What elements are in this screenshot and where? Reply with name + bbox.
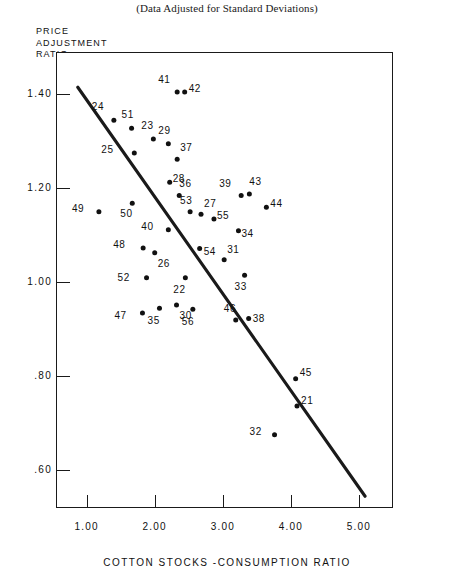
data-point-label: 46 — [224, 304, 236, 314]
data-point-label: 33 — [235, 282, 247, 292]
x-axis-title: COTTON STOCKS -CONSUMPTION RATIO — [0, 557, 454, 568]
data-point-label: 37 — [180, 143, 192, 153]
data-point-label: 31 — [227, 245, 239, 255]
y-axis-tick-label: 1.40 — [4, 88, 52, 99]
data-point — [264, 205, 269, 210]
data-point — [246, 316, 251, 321]
data-point — [233, 317, 238, 322]
trend-line — [78, 87, 365, 496]
data-point — [211, 216, 216, 221]
data-point-label: 35 — [147, 316, 159, 326]
data-point — [174, 302, 179, 307]
data-point-label: 56 — [182, 317, 194, 327]
y-axis-tick-mark — [57, 376, 70, 377]
data-point — [293, 376, 298, 381]
data-point — [96, 209, 101, 214]
data-point-label: 48 — [113, 240, 125, 250]
data-point-label: 21 — [301, 396, 313, 406]
y-axis-title-line-2: ADJUSTMENT — [36, 38, 108, 50]
data-point — [141, 246, 146, 251]
data-point — [182, 89, 187, 94]
data-point-label: 40 — [141, 222, 153, 232]
data-point-label: 53 — [180, 196, 192, 206]
data-point — [166, 227, 171, 232]
y-axis-tick-label: .80 — [4, 370, 52, 381]
data-point-label: 27 — [204, 199, 216, 209]
data-point-label: 39 — [219, 179, 231, 189]
x-axis-tick-mark — [223, 495, 224, 508]
x-axis-tick-mark — [155, 495, 156, 508]
data-point-label: 29 — [158, 126, 170, 136]
data-point — [199, 212, 204, 217]
y-axis-tick-mark — [57, 188, 70, 189]
chart-figure: (Data Adjusted for Standard Deviations) … — [0, 0, 454, 583]
data-point-label: 44 — [270, 199, 282, 209]
data-point-label: 34 — [241, 229, 253, 239]
data-point — [242, 273, 247, 278]
x-axis-tick-label: 2.00 — [130, 521, 180, 532]
data-point-label: 47 — [114, 311, 126, 321]
data-point — [239, 193, 244, 198]
data-point — [175, 89, 180, 94]
data-point — [111, 118, 116, 123]
data-point — [166, 141, 171, 146]
data-point-label: 51 — [122, 110, 134, 120]
x-axis-tick-mark — [87, 495, 88, 508]
data-point-label: 42 — [189, 84, 201, 94]
x-axis-tick-mark — [291, 495, 292, 508]
data-point — [175, 157, 180, 162]
data-point-label: 38 — [253, 314, 265, 324]
data-point — [295, 403, 300, 408]
y-axis-tick-label: .60 — [4, 464, 52, 475]
scatter-points-group — [96, 89, 299, 437]
data-point — [151, 136, 156, 141]
y-axis-tick-label: 1.00 — [4, 276, 52, 287]
data-point-label: 26 — [158, 259, 170, 269]
data-point — [130, 201, 135, 206]
data-point — [188, 209, 193, 214]
data-point-label: 49 — [72, 204, 84, 214]
data-point — [222, 257, 227, 262]
data-point-label: 36 — [179, 179, 191, 189]
data-point-label: 41 — [158, 75, 170, 85]
y-axis-title-line-1: PRICE — [36, 26, 108, 38]
data-point — [183, 275, 188, 280]
data-point-label: 55 — [217, 211, 229, 221]
data-point — [236, 228, 241, 233]
y-axis-tick-mark — [57, 470, 70, 471]
data-point — [129, 126, 134, 131]
data-point-label: 23 — [141, 121, 153, 131]
data-point-label: 52 — [118, 273, 130, 283]
data-point-label: 22 — [173, 285, 185, 295]
data-point — [132, 151, 137, 156]
x-axis-tick-label: 4.00 — [266, 521, 316, 532]
data-point — [197, 246, 202, 251]
data-point — [167, 180, 172, 185]
x-axis-tick-label: 5.00 — [334, 521, 384, 532]
y-axis-tick-mark — [57, 282, 70, 283]
plot-data-layer — [56, 52, 393, 508]
data-point — [152, 250, 157, 255]
data-point — [157, 306, 162, 311]
data-point-label: 32 — [250, 427, 262, 437]
data-point-label: 43 — [249, 177, 261, 187]
data-point-label: 54 — [204, 247, 216, 257]
data-point — [272, 432, 277, 437]
x-axis-tick-label: 3.00 — [198, 521, 248, 532]
data-point — [144, 275, 149, 280]
data-point — [140, 310, 145, 315]
data-point — [247, 191, 252, 196]
data-point-label: 24 — [92, 102, 104, 112]
data-point-label: 50 — [120, 209, 132, 219]
x-axis-tick-label: 1.00 — [62, 521, 112, 532]
data-point-label: 45 — [300, 368, 312, 378]
data-point-label: 25 — [101, 145, 113, 155]
chart-title: (Data Adjusted for Standard Deviations) — [0, 2, 454, 14]
x-axis-tick-mark — [359, 495, 360, 508]
y-axis-tick-label: 1.20 — [4, 182, 52, 193]
y-axis-tick-mark — [57, 94, 70, 95]
